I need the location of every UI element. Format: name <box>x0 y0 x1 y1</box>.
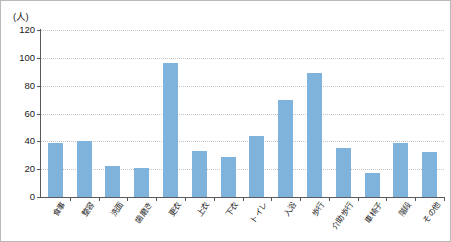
x-axis-tick-mark <box>70 197 71 201</box>
x-axis-category-label: 階段 <box>398 201 414 218</box>
gridline <box>41 114 444 115</box>
y-axis-tick-mark <box>37 86 41 87</box>
gridline <box>41 58 444 59</box>
x-axis-tick-mark <box>127 197 128 201</box>
plot-area: 020406080100120 <box>41 30 444 197</box>
x-axis-tick-mark <box>386 197 387 201</box>
bar <box>307 73 322 197</box>
x-axis-tick-mark <box>243 197 244 201</box>
bar <box>48 143 63 197</box>
y-axis-tick-label: 0 <box>30 192 35 202</box>
x-axis-tick-mark <box>156 197 157 201</box>
x-axis-category-label: 食事 <box>52 201 68 218</box>
y-axis-tick-mark <box>37 30 41 31</box>
x-axis-category-label: 上衣 <box>196 201 212 218</box>
bar-chart-figure: (人) 020406080100120 食事整容洗面歯磨き更衣上衣下衣トイレ入浴… <box>0 0 451 242</box>
y-axis-unit-label: (人) <box>13 9 28 23</box>
x-axis-tick-mark <box>271 197 272 201</box>
x-axis-category-label: 更衣 <box>168 201 184 218</box>
bar <box>422 152 437 197</box>
bar <box>336 148 351 197</box>
y-axis-tick-mark <box>37 114 41 115</box>
x-axis-tick-mark <box>300 197 301 201</box>
x-axis-category-label: 入浴 <box>283 201 299 218</box>
y-axis-tick-label: 60 <box>24 109 35 119</box>
bar <box>134 168 149 197</box>
bar <box>221 157 236 197</box>
gridline <box>41 169 444 170</box>
x-axis-category-label: 歯磨き <box>134 201 154 225</box>
y-axis-tick-label: 40 <box>24 137 35 147</box>
y-axis-tick-label: 100 <box>19 53 35 63</box>
bar <box>77 141 92 197</box>
bar <box>105 166 120 197</box>
x-axis-tick-mark <box>185 197 186 201</box>
y-axis-tick-mark <box>37 197 41 198</box>
x-axis-category-label: 洗面 <box>110 201 126 218</box>
y-axis-tick-mark <box>37 141 41 142</box>
x-axis-tick-mark <box>415 197 416 201</box>
x-axis-tick-mark <box>99 197 100 201</box>
x-axis-tick-mark <box>329 197 330 201</box>
x-axis-category-label: トイレ <box>249 201 269 225</box>
x-axis-category-label: その他 <box>422 201 442 225</box>
x-axis-category-label: 歩行 <box>311 201 327 218</box>
bar <box>192 151 207 197</box>
x-axis-tick-mark <box>358 197 359 201</box>
y-axis-tick-label: 120 <box>19 25 35 35</box>
x-axis-category-label: 車椅子 <box>365 201 385 225</box>
y-axis-tick-mark <box>37 169 41 170</box>
x-axis-tick-mark <box>444 197 445 201</box>
bar <box>278 100 293 197</box>
y-axis-tick-label: 80 <box>24 81 35 91</box>
x-axis-tick-mark <box>214 197 215 201</box>
y-axis-tick-label: 20 <box>24 164 35 174</box>
bar <box>249 136 264 197</box>
bar <box>163 63 178 197</box>
bar <box>393 143 408 197</box>
bar <box>365 173 380 197</box>
x-axis-category-label: 介助歩行 <box>331 201 355 231</box>
y-axis-tick-mark <box>37 58 41 59</box>
x-axis-category-label: 下衣 <box>225 201 241 218</box>
gridline <box>41 86 444 87</box>
x-axis-category-label: 整容 <box>81 201 97 218</box>
gridline <box>41 141 444 142</box>
gridline <box>41 30 444 31</box>
